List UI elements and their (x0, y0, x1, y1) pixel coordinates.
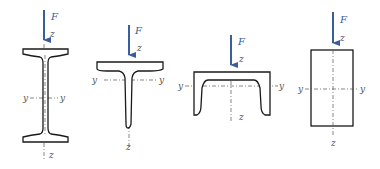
cross-sections-diagram: F z z y y F z z y y F z z y y F z z y (0, 0, 380, 169)
force-label: F (237, 36, 246, 47)
z-top-label: z (49, 29, 55, 39)
y-right-label: y (158, 75, 165, 85)
rectangle-section: F z z y y (297, 12, 366, 148)
t-beam-outline (97, 62, 163, 128)
y-left-label: y (297, 84, 304, 94)
y-right-label: y (278, 81, 285, 91)
y-left-label: y (177, 81, 184, 91)
i-beam-section: F z z y y (22, 10, 68, 160)
t-beam-section: F z z y y (91, 25, 165, 152)
force-label: F (134, 25, 143, 36)
y-left-label: y (91, 75, 98, 85)
z-bottom-label: z (125, 142, 131, 152)
force-label: F (50, 11, 59, 22)
z-top-label: z (238, 54, 244, 64)
z-top-label: z (136, 43, 142, 53)
y-left-label: y (22, 93, 29, 103)
rectangle-outline (311, 50, 353, 126)
y-right-label: y (59, 93, 66, 103)
channel-section: F z z y y (177, 35, 285, 122)
y-right-label: y (359, 84, 366, 94)
z-bottom-label: z (48, 150, 54, 160)
z-bottom-label: z (238, 112, 244, 122)
channel-outline (194, 72, 270, 115)
z-bottom-label: z (330, 138, 336, 148)
z-top-label: z (339, 33, 345, 43)
force-label: F (339, 14, 348, 25)
